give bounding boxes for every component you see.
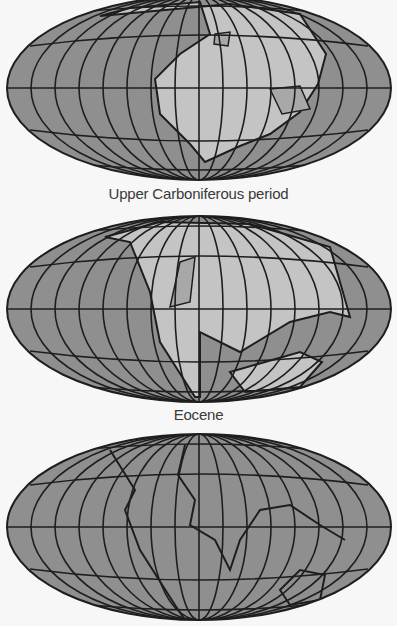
map-label-1: Upper Carboniferous period — [0, 185, 397, 202]
globe-map-1 — [0, 0, 397, 184]
map-label-2: Eocene — [0, 406, 397, 423]
map-upper-carboniferous — [0, 0, 397, 184]
globe-map-2 — [0, 212, 397, 404]
map-present — [0, 430, 397, 622]
map-eocene — [0, 212, 397, 404]
globe-map-3 — [0, 430, 397, 622]
